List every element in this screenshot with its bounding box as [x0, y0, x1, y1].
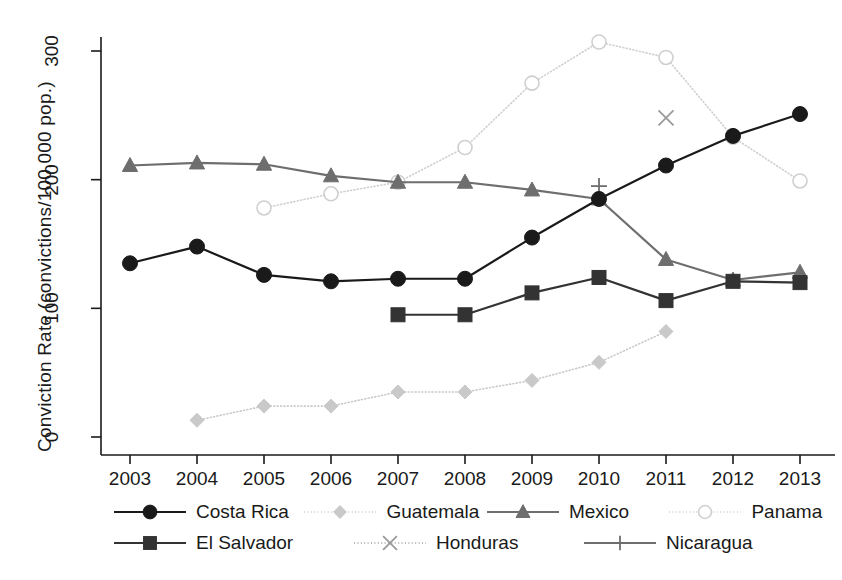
data-point-marker	[391, 385, 405, 399]
legend-row: El SalvadorHondurasNicaragua	[0, 527, 842, 558]
data-point-marker	[659, 294, 673, 308]
y-tick-label: 200	[41, 157, 63, 203]
legend-label: Honduras	[436, 532, 518, 554]
data-point-marker	[592, 270, 606, 284]
data-point-marker	[726, 128, 741, 143]
legend-swatch-el-salvador	[112, 533, 188, 553]
line-chart-plot	[0, 0, 842, 580]
data-point-marker	[525, 230, 540, 245]
series-line	[130, 114, 800, 281]
x-tick-label: 2007	[368, 468, 428, 490]
series-mexico	[122, 155, 807, 286]
data-point-marker	[793, 276, 807, 290]
series-honduras	[659, 110, 674, 125]
data-point-marker	[257, 399, 271, 413]
legend-item-guatemala[interactable]: Guatemala	[302, 496, 485, 527]
legend-row: Costa RicaGuatemalaMexicoPanama	[0, 496, 842, 527]
data-point-marker	[659, 110, 674, 125]
legend-label: El Salvador	[196, 532, 293, 554]
y-tick-label: 100	[41, 285, 63, 331]
x-tick-label: 2008	[435, 468, 495, 490]
data-point-marker	[458, 271, 473, 286]
data-point-marker	[257, 201, 271, 215]
data-point-marker	[391, 271, 406, 286]
series-layer	[122, 35, 807, 427]
x-tick-label: 2013	[770, 468, 830, 490]
legend-label: Guatemala	[386, 501, 479, 523]
legend-item-nicaragua[interactable]: Nicaragua	[582, 527, 812, 558]
data-point-marker	[525, 76, 539, 90]
data-point-marker	[190, 413, 204, 427]
data-point-marker	[659, 50, 673, 64]
chart-root: Conviction Rate (convictions/100,000 pop…	[0, 0, 842, 580]
data-point-marker	[458, 385, 472, 399]
data-point-marker	[525, 286, 539, 300]
chart-legend: Costa RicaGuatemalaMexicoPanamaEl Salvad…	[0, 496, 842, 558]
data-point-marker	[592, 355, 606, 369]
data-point-marker	[144, 536, 157, 549]
legend-swatch-honduras	[352, 533, 428, 553]
data-point-marker	[613, 535, 628, 550]
data-point-marker	[592, 35, 606, 49]
data-point-marker	[699, 505, 712, 518]
y-tick-label: 300	[41, 28, 63, 74]
data-point-marker	[391, 308, 405, 322]
legend-swatch-costa-rica	[112, 502, 188, 522]
x-tick-label: 2004	[167, 468, 227, 490]
x-tick-label: 2010	[569, 468, 629, 490]
data-point-marker	[726, 274, 740, 288]
legend-item-honduras[interactable]: Honduras	[352, 527, 582, 558]
data-point-marker	[324, 399, 338, 413]
legend-item-mexico[interactable]: Mexico	[485, 496, 668, 527]
data-point-marker	[334, 505, 347, 518]
legend-label: Panama	[751, 501, 822, 523]
legend-label: Mexico	[569, 501, 629, 523]
x-tick-label: 2003	[100, 468, 160, 490]
y-tick-label: 0	[41, 414, 63, 460]
data-point-marker	[458, 141, 472, 155]
legend-swatch-guatemala	[302, 502, 378, 522]
x-tick-label: 2006	[301, 468, 361, 490]
data-point-marker	[458, 308, 472, 322]
data-point-marker	[324, 187, 338, 201]
y-axis-title: Conviction Rate (convictions/100,000 pop…	[34, 81, 56, 452]
legend-label: Costa Rica	[196, 501, 289, 523]
legend-swatch-nicaragua	[582, 533, 658, 553]
series-guatemala	[190, 324, 673, 427]
legend-label: Nicaragua	[666, 532, 753, 554]
data-point-marker	[324, 274, 339, 289]
series-costa-rica	[123, 107, 808, 289]
data-point-marker	[659, 158, 674, 173]
data-point-marker	[189, 155, 204, 169]
x-tick-label: 2005	[234, 468, 294, 490]
legend-item-costa-rica[interactable]: Costa Rica	[112, 496, 302, 527]
x-tick-label: 2011	[636, 468, 696, 490]
data-point-marker	[793, 107, 808, 122]
data-point-marker	[143, 505, 157, 519]
legend-item-el-salvador[interactable]: El Salvador	[112, 527, 352, 558]
data-point-marker	[525, 373, 539, 387]
x-tick-label: 2012	[703, 468, 763, 490]
legend-swatch-panama	[667, 502, 743, 522]
data-point-marker	[793, 174, 807, 188]
legend-swatch-mexico	[485, 502, 561, 522]
data-point-marker	[123, 256, 138, 271]
data-point-marker	[257, 267, 272, 282]
data-point-marker	[592, 191, 607, 206]
legend-item-panama[interactable]: Panama	[667, 496, 842, 527]
data-point-marker	[659, 324, 673, 338]
x-tick-label: 2009	[502, 468, 562, 490]
data-point-marker	[190, 239, 205, 254]
